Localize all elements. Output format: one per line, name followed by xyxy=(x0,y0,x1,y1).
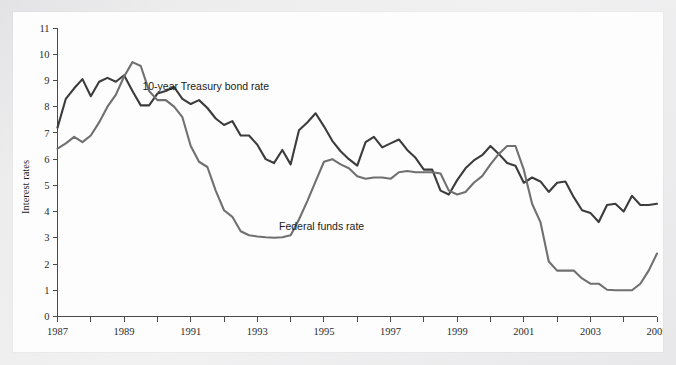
series-line-10-year-treasury-bond-rate xyxy=(58,75,658,222)
figure-card: Interest rates 01234567891011 1987198919… xyxy=(13,12,663,352)
interest-rates-line-chart: Interest rates 01234567891011 1987198919… xyxy=(13,12,663,352)
x-tick-label: 1993 xyxy=(247,326,268,337)
y-tick-label: 8 xyxy=(44,101,49,112)
x-tick-label: 1989 xyxy=(114,326,135,337)
series-line-federal-funds-rate xyxy=(58,62,658,290)
series-annotation-label: Federal funds rate xyxy=(279,220,364,232)
x-axis-ticks: 1987198919911993199519971999200120032005 xyxy=(47,317,663,337)
y-tick-label: 10 xyxy=(39,49,50,60)
y-axis-ticks: 01234567891011 xyxy=(39,23,58,323)
y-axis-title: Interest rates xyxy=(20,160,31,214)
y-tick-label: 2 xyxy=(44,259,49,270)
series-lines xyxy=(58,62,658,290)
y-tick-label: 1 xyxy=(44,285,49,296)
x-tick-label: 1991 xyxy=(180,326,201,337)
x-tick-label: 2005 xyxy=(647,326,664,337)
y-tick-label: 5 xyxy=(44,180,49,191)
x-tick-label: 2001 xyxy=(513,326,534,337)
y-tick-label: 0 xyxy=(44,311,49,322)
y-tick-label: 6 xyxy=(44,154,49,165)
y-tick-label: 4 xyxy=(44,206,50,217)
x-tick-label: 1995 xyxy=(313,326,334,337)
series-annotations: 10-year Treasury bond rateFederal funds … xyxy=(142,80,364,232)
y-tick-label: 7 xyxy=(44,128,49,139)
x-tick-label: 2003 xyxy=(580,326,601,337)
x-tick-label: 1999 xyxy=(447,326,468,337)
series-annotation-label: 10-year Treasury bond rate xyxy=(142,80,269,92)
y-axis-title-group: Interest rates xyxy=(20,160,31,214)
y-tick-label: 3 xyxy=(44,232,49,243)
x-tick-label: 1987 xyxy=(47,326,68,337)
y-tick-label: 9 xyxy=(44,75,49,86)
y-tick-label: 11 xyxy=(39,23,49,34)
x-tick-label: 1997 xyxy=(380,326,401,337)
page-background: Interest rates 01234567891011 1987198919… xyxy=(0,0,676,365)
